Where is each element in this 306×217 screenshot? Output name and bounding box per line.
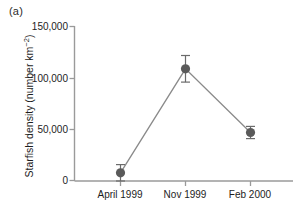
series-line [121,69,251,173]
data-point-marker [181,64,190,73]
data-point-marker [246,128,255,137]
figure-panel-a: (a) Starfish density (number km−2) 150,0… [0,0,306,217]
plot-area [0,0,306,217]
x-tick-label: Feb 2000 [210,189,290,200]
data-point-marker [116,168,125,177]
